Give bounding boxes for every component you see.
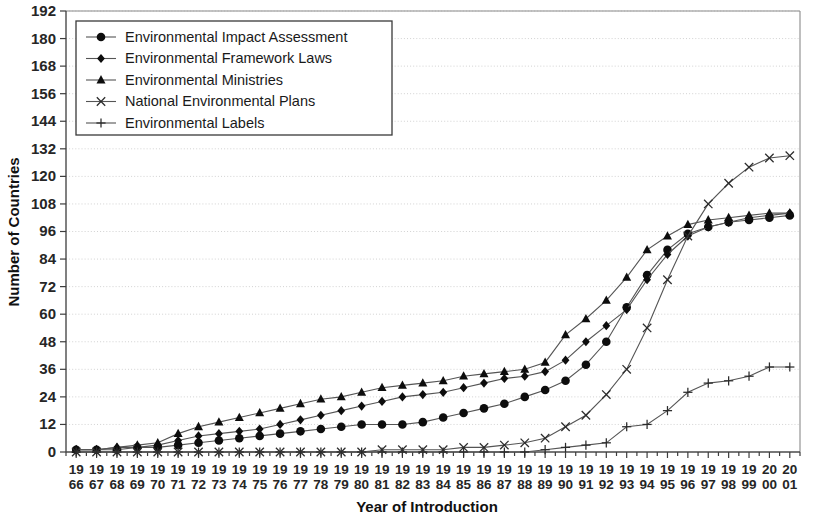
x-tick-label-century: 19 — [232, 462, 247, 477]
data-point-marker — [357, 420, 366, 429]
x-tick-label-year: 93 — [619, 477, 635, 492]
y-tick-label: 96 — [39, 222, 56, 239]
y-tick-label: 0 — [48, 443, 56, 460]
x-tick-label-century: 19 — [293, 462, 308, 477]
x-tick-label-year: 81 — [375, 477, 391, 492]
x-tick-label-century: 19 — [517, 462, 532, 477]
x-tick-label-century: 19 — [497, 462, 512, 477]
x-tick-label-year: 94 — [640, 477, 656, 492]
x-tick-label-century: 19 — [89, 462, 104, 477]
x-tick-label-year: 01 — [782, 477, 798, 492]
y-tick-label: 192 — [31, 2, 56, 19]
x-tick-label-century: 19 — [538, 462, 553, 477]
x-tick-label-year: 72 — [191, 477, 206, 492]
x-tick-label-century: 19 — [436, 462, 451, 477]
x-tick-label-century: 19 — [130, 462, 145, 477]
data-point-marker — [561, 376, 570, 385]
data-point-marker — [602, 337, 611, 346]
x-tick-label-century: 19 — [599, 462, 614, 477]
y-tick-label: 180 — [31, 30, 56, 47]
x-tick-label-year: 77 — [293, 477, 308, 492]
x-tick-label-year: 69 — [130, 477, 145, 492]
x-tick-label-century: 19 — [701, 462, 716, 477]
y-tick-label: 156 — [31, 85, 56, 102]
data-point-marker — [398, 420, 407, 429]
x-tick-label-year: 87 — [497, 477, 512, 492]
x-tick-label-century: 19 — [334, 462, 349, 477]
data-point-marker — [317, 425, 326, 434]
x-tick-label-year: 95 — [660, 477, 676, 492]
x-tick-label-year: 73 — [211, 477, 227, 492]
x-tick-label-year: 71 — [171, 477, 187, 492]
chart-legend: Environmental Impact AssessmentEnvironme… — [76, 21, 392, 135]
data-point-marker — [439, 413, 448, 422]
y-tick-label: 24 — [39, 388, 56, 405]
y-tick-label: 84 — [39, 250, 56, 267]
y-axis-title: Number of Countries — [5, 157, 22, 306]
data-point-marker — [459, 409, 468, 418]
x-tick-label-century: 19 — [578, 462, 593, 477]
x-tick-label-year: 89 — [538, 477, 553, 492]
x-tick-label-year: 84 — [436, 477, 452, 492]
line-chart: 0122436486072849610812013214415616818019… — [0, 0, 815, 518]
x-tick-label-year: 80 — [354, 477, 369, 492]
legend-entry-label: Environmental Labels — [125, 115, 264, 131]
data-point-marker — [582, 360, 591, 369]
y-tick-label: 120 — [31, 167, 56, 184]
x-tick-label-century: 19 — [619, 462, 634, 477]
x-tick-label-century: 19 — [640, 462, 655, 477]
x-tick-label-year: 90 — [558, 477, 573, 492]
x-tick-label-year: 82 — [395, 477, 410, 492]
x-tick-label-century: 19 — [558, 462, 573, 477]
legend-entry-label: National Environmental Plans — [125, 93, 315, 109]
x-tick-label-year: 99 — [742, 477, 757, 492]
data-point-marker — [276, 429, 285, 438]
x-tick-label-century: 19 — [415, 462, 430, 477]
chart-container: 0122436486072849610812013214415616818019… — [0, 0, 815, 518]
y-tick-label: 72 — [39, 278, 56, 295]
x-tick-label-year: 70 — [150, 477, 165, 492]
x-tick-label-year: 66 — [69, 477, 85, 492]
x-tick-label-century: 19 — [476, 462, 491, 477]
x-tick-label-century: 19 — [273, 462, 288, 477]
data-point-marker — [337, 422, 346, 431]
x-tick-label-century: 19 — [354, 462, 369, 477]
legend-marker-circle — [97, 33, 106, 42]
x-tick-label-century: 20 — [782, 462, 797, 477]
x-tick-label-year: 68 — [109, 477, 125, 492]
x-tick-label-year: 91 — [578, 477, 594, 492]
x-tick-label-year: 76 — [273, 477, 289, 492]
y-tick-label: 144 — [31, 112, 57, 129]
data-point-marker — [296, 427, 305, 436]
x-tick-label-year: 74 — [232, 477, 248, 492]
x-tick-label-century: 20 — [762, 462, 777, 477]
x-tick-label-year: 00 — [762, 477, 777, 492]
x-tick-label-century: 19 — [660, 462, 675, 477]
legend-entry-label: Environmental Impact Assessment — [125, 29, 347, 45]
x-tick-label-century: 19 — [456, 462, 471, 477]
x-tick-label-century: 19 — [395, 462, 410, 477]
y-tick-label: 36 — [39, 360, 56, 377]
x-tick-label-century: 19 — [69, 462, 84, 477]
x-tick-label-year: 92 — [599, 477, 614, 492]
x-tick-label-century: 19 — [313, 462, 328, 477]
x-tick-label-year: 86 — [476, 477, 492, 492]
x-tick-label-year: 67 — [89, 477, 104, 492]
y-tick-label: 48 — [39, 333, 56, 350]
x-tick-label-year: 75 — [252, 477, 268, 492]
x-axis-title: Year of Introduction — [356, 498, 498, 515]
data-point-marker — [541, 386, 550, 395]
y-tick-label: 12 — [39, 415, 56, 432]
x-tick-label-century: 19 — [721, 462, 736, 477]
x-tick-label-century: 19 — [191, 462, 206, 477]
x-tick-label-century: 19 — [742, 462, 757, 477]
x-tick-label-year: 88 — [517, 477, 533, 492]
data-point-marker — [378, 420, 387, 429]
legend-entry-label: Environmental Framework Laws — [125, 50, 332, 66]
data-point-marker — [500, 399, 509, 408]
x-tick-label-century: 19 — [171, 462, 186, 477]
x-tick-label-year: 96 — [680, 477, 696, 492]
data-point-marker — [520, 393, 529, 402]
x-tick-label-century: 19 — [150, 462, 165, 477]
x-tick-label-year: 97 — [701, 477, 716, 492]
